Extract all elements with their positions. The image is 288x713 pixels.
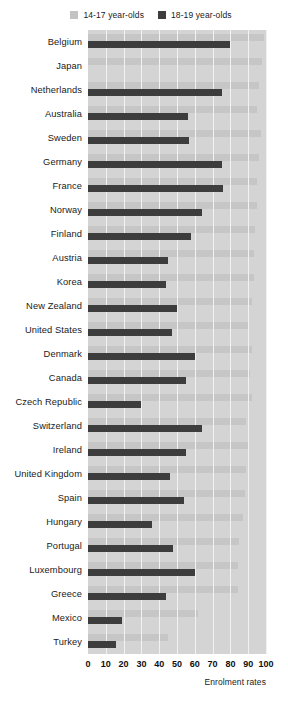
x-axis-title: Enrolment rates <box>0 676 288 687</box>
bar-18-19 <box>88 497 184 504</box>
chart-row: Luxembourg <box>0 558 288 582</box>
row-plot-area <box>88 462 282 486</box>
gridline <box>230 606 231 630</box>
bar-18-19 <box>88 89 222 96</box>
bar-18-19 <box>88 137 189 144</box>
bar-18-19 <box>88 209 202 216</box>
bar-18-19 <box>88 281 166 288</box>
row-plot-area <box>88 78 282 102</box>
bar-14-17 <box>88 58 262 65</box>
bar-14-17 <box>88 154 259 161</box>
gridline <box>266 342 267 366</box>
x-tick-label: 50 <box>172 659 182 669</box>
country-label: Mexico <box>0 613 88 623</box>
bar-14-17 <box>88 274 254 281</box>
gridline <box>248 438 249 462</box>
bar-14-17 <box>88 610 198 617</box>
legend-swatch-icon-14-17 <box>70 11 78 19</box>
chart-row: United Kingdom <box>0 462 288 486</box>
bar-14-17 <box>88 130 261 137</box>
bar-14-17 <box>88 202 257 209</box>
country-label: New Zealand <box>0 301 88 311</box>
chart-rows: BelgiumJapanNetherlandsAustraliaSwedenGe… <box>0 30 288 654</box>
chart-row: Greece <box>0 582 288 606</box>
bar-18-19 <box>88 353 195 360</box>
x-tick-label: 100 <box>258 659 273 669</box>
x-tick-label: 10 <box>101 659 111 669</box>
country-label: Czech Republic <box>0 397 88 407</box>
bar-18-19 <box>88 185 223 192</box>
gridline <box>266 174 267 198</box>
axis-spacer <box>0 654 88 676</box>
bar-14-17 <box>88 586 238 593</box>
gridline <box>266 414 267 438</box>
bar-14-17 <box>88 490 245 497</box>
bar-18-19 <box>88 377 186 384</box>
x-tick-label: 90 <box>243 659 253 669</box>
country-label: France <box>0 181 88 191</box>
gridline <box>248 582 249 606</box>
bar-14-17 <box>88 82 259 89</box>
country-label: Turkey <box>0 637 88 647</box>
country-label: Greece <box>0 589 88 599</box>
gridline <box>230 630 231 654</box>
chart-row: New Zealand <box>0 294 288 318</box>
chart-row: Australia <box>0 102 288 126</box>
gridline <box>248 414 249 438</box>
x-axis-ticks: 0102030405060708090100 <box>88 654 282 676</box>
bar-14-17 <box>88 178 257 185</box>
bar-14-17 <box>88 346 252 353</box>
row-plot-area <box>88 102 282 126</box>
legend-swatch-icon-18-19 <box>158 11 166 19</box>
row-plot-area <box>88 486 282 510</box>
country-label: Spain <box>0 493 88 503</box>
country-label: Ireland <box>0 445 88 455</box>
gridline <box>248 510 249 534</box>
country-label: Japan <box>0 61 88 71</box>
legend-item-18-19: 18-19 year-olds <box>158 10 232 20</box>
bar-14-17 <box>88 466 246 473</box>
chart-row: Belgium <box>0 30 288 54</box>
bar-18-19 <box>88 41 230 48</box>
bar-14-17 <box>88 298 252 305</box>
bar-18-19 <box>88 401 141 408</box>
country-label: Netherlands <box>0 85 88 95</box>
country-label: Finland <box>0 229 88 239</box>
gridline <box>266 30 267 54</box>
chart-row: Germany <box>0 150 288 174</box>
row-plot-area <box>88 174 282 198</box>
x-tick-label: 80 <box>225 659 235 669</box>
row-plot-area <box>88 30 282 54</box>
gridline <box>266 294 267 318</box>
chart-row: Hungary <box>0 510 288 534</box>
chart-row: Norway <box>0 198 288 222</box>
gridline <box>248 606 249 630</box>
bar-14-17 <box>88 250 254 257</box>
country-label: Belgium <box>0 37 88 47</box>
gridline <box>266 270 267 294</box>
chart-row: Netherlands <box>0 78 288 102</box>
bar-14-17 <box>88 34 264 41</box>
gridline <box>177 630 178 654</box>
row-plot-area <box>88 294 282 318</box>
chart-row: Denmark <box>0 342 288 366</box>
row-plot-area <box>88 534 282 558</box>
bar-18-19 <box>88 329 172 336</box>
bar-18-19 <box>88 305 177 312</box>
bar-14-17 <box>88 370 250 377</box>
gridline <box>266 198 267 222</box>
chart-row: Korea <box>0 270 288 294</box>
bar-18-19 <box>88 425 202 432</box>
row-plot-area <box>88 198 282 222</box>
gridline <box>266 390 267 414</box>
gridline <box>266 558 267 582</box>
bar-18-19 <box>88 569 195 576</box>
row-plot-area <box>88 246 282 270</box>
gridline <box>248 318 249 342</box>
chart-row: Ireland <box>0 438 288 462</box>
gridline <box>266 150 267 174</box>
country-label: Norway <box>0 205 88 215</box>
bar-18-19 <box>88 521 152 528</box>
chart-row: Finland <box>0 222 288 246</box>
bar-18-19 <box>88 617 122 624</box>
